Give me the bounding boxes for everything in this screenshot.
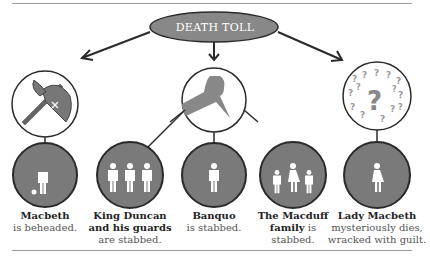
svg-text:?: ? [367,86,382,116]
axe-method [12,71,78,150]
victim-fate: are stabbed. [98,234,161,245]
arrow-left [82,32,150,58]
victim-fate: is beheaded. [13,222,77,233]
svg-text:?: ? [386,70,391,80]
svg-text:?: ? [398,103,403,112]
victim-macbeth [13,143,77,207]
mystery-method: ?? ?? ?? ?? ?? ?? ?? ? [343,62,411,150]
victim-name-line1: The Macduff [258,210,329,221]
svg-text:?: ? [350,102,355,112]
caption-banquo: Banquo is stabbed. [169,210,259,234]
arrow-right [278,32,342,60]
caption-macbeth: Macbeth is beheaded. [0,210,90,234]
victim-banquo [182,143,246,207]
connector-duncan [145,112,183,150]
victim-name: Banquo [192,210,235,221]
caption-lady-macbeth: Lady Macbeth mysteriously dies, wracked … [322,210,430,246]
victim-duncan [97,142,163,208]
knife-method [170,68,258,150]
svg-text:?: ? [362,70,367,80]
caption-duncan: King Duncan and his guards are stabbed. [80,210,180,246]
svg-text:?: ? [398,90,403,100]
svg-text:?: ? [396,76,401,86]
victim-macduff [260,142,326,208]
victim-name: Lady Macbeth [338,210,417,221]
victim-name: Macbeth [21,210,70,221]
victim-fate: is stabbed. [187,222,242,233]
svg-text:?: ? [360,110,365,120]
victim-fate-line2: wracked with guilt. [328,234,426,245]
victim-fate: stabbed. [271,234,314,245]
svg-text:?: ? [348,88,353,98]
victim-fate: mysteriously dies, [331,222,423,233]
victim-name-line2: family [270,222,305,233]
victim-fate-inline: is [308,222,316,233]
svg-text:?: ? [392,85,397,94]
svg-text:?: ? [390,104,395,114]
victim-lady-macbeth [344,142,410,208]
svg-text:?: ? [374,68,379,78]
victim-name-line2: and his guards [88,222,171,233]
svg-text:?: ? [356,83,361,92]
diagram-title: DEATH TOLL [160,21,270,34]
victim-name-line1: King Duncan [93,210,166,221]
